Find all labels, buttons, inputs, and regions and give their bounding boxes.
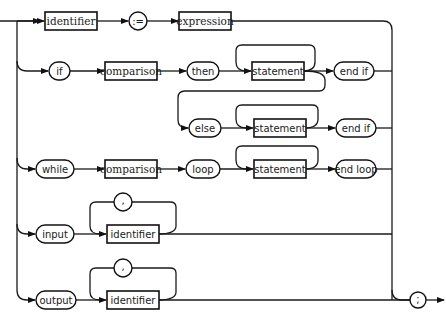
identifier-label: identifier xyxy=(47,15,97,27)
loop-label: loop xyxy=(192,164,213,175)
comparison-label-1: comparison xyxy=(100,65,162,77)
comma-label-2: , xyxy=(121,261,124,272)
branch-while: while comparison loop statement end loop xyxy=(17,146,392,178)
statement-label-1: statement xyxy=(252,66,304,77)
branch-assignment: identifier := expression xyxy=(17,12,392,300)
end-if-label-2: end if xyxy=(342,123,371,134)
input-label: input xyxy=(42,229,68,240)
assign-label: := xyxy=(132,16,144,27)
branch-input: input , identifier xyxy=(17,193,392,243)
syntax-diagram: identifier := expression if comparison t… xyxy=(0,0,446,320)
comma-label-1: , xyxy=(121,195,124,206)
branch-if: if comparison then statement end if xyxy=(17,45,392,128)
end-if-label-1: end if xyxy=(340,66,369,77)
identifier-label-3: identifier xyxy=(111,295,157,306)
expression-label: expression xyxy=(176,15,234,27)
output-label: output xyxy=(40,295,73,306)
else-label: else xyxy=(195,123,215,134)
exit: ; xyxy=(392,290,444,308)
statement-label-3: statement xyxy=(254,164,306,175)
entry-line xyxy=(0,21,40,290)
while-label: while xyxy=(42,164,68,175)
if-label: if xyxy=(56,66,63,77)
semicolon-label: ; xyxy=(416,294,419,305)
comparison-label-2: comparison xyxy=(100,163,162,175)
statement-label-2: statement xyxy=(254,123,306,134)
branch-else: else statement end if xyxy=(189,105,392,137)
branch-output: output , identifier xyxy=(17,259,410,309)
then-label: then xyxy=(192,66,215,77)
identifier-label-2: identifier xyxy=(111,229,157,240)
end-loop-label: end loop xyxy=(334,164,377,175)
